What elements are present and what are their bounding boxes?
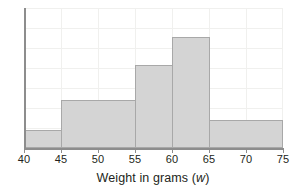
histogram-bar (61, 100, 136, 148)
x-axis-tick-label: 75 (268, 153, 298, 165)
x-axis-tick-label: 60 (157, 153, 187, 165)
x-axis-tick-label: 45 (46, 153, 76, 165)
x-axis-tick-label: 65 (194, 153, 224, 165)
histogram-bar (209, 120, 283, 148)
x-axis-line (24, 148, 284, 150)
x-axis-title-variable: w (196, 171, 205, 185)
histogram-bar (172, 37, 210, 148)
x-axis-tick-label: 55 (120, 153, 150, 165)
plot-area (24, 8, 283, 148)
x-axis-tick-label: 70 (231, 153, 261, 165)
bars-layer (24, 8, 283, 148)
histogram-bar (24, 130, 62, 148)
x-axis-title-text: Weight in grams ( (97, 171, 196, 185)
histogram-chart: 40 45 50 55 60 65 70 75 Weight in grams … (0, 0, 306, 195)
histogram-bar (135, 65, 173, 148)
x-axis-tick-label: 40 (9, 153, 39, 165)
x-axis-title-suffix: ) (205, 171, 209, 185)
x-axis-title: Weight in grams (w) (0, 171, 306, 185)
y-axis-line (24, 8, 26, 149)
x-axis-tick-label: 50 (83, 153, 113, 165)
